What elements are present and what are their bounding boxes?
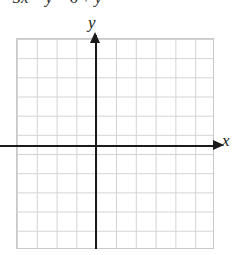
equation-variable-y-left: y (45, 0, 53, 7)
y-axis-label: y (88, 14, 96, 31)
y-axis-line (95, 35, 97, 249)
x-axis-arrow-icon (213, 140, 224, 150)
equation-clip: 5x−y=6+y (0, 0, 234, 9)
equation-variable-y-right: y (94, 0, 102, 7)
equation-plus-operator: + (78, 0, 94, 7)
grid-lines (16, 38, 214, 249)
equation-coefficient: 5 (12, 0, 21, 7)
coordinate-plane (16, 38, 214, 249)
equation-variable-x: x (21, 0, 29, 7)
x-axis-line (0, 145, 214, 147)
worksheet-graph-figure: 5x−y=6+y y x (0, 0, 234, 255)
equation-minus-operator: − (29, 0, 45, 7)
equation-equals-operator: = (53, 0, 69, 7)
y-axis-arrow-icon (90, 32, 100, 43)
equation-text: 5x−y=6+y (12, 0, 102, 7)
equation-constant: 6 (69, 0, 78, 7)
